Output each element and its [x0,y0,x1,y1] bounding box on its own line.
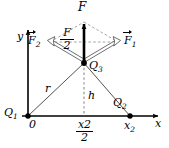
label-vector-f: F [78,1,86,13]
label-charge-q3-base: Q [89,59,98,72]
label-charge-q2: Q2 [113,97,127,111]
label-charge-q2-sub: 2 [122,102,127,111]
label-axis-x-text: x [155,117,161,130]
label-origin-zero-text: 0 [29,118,36,131]
label-charge-q1: Q1 [4,107,18,121]
label-charge-q3: Q3 [89,60,103,74]
label-origin-zero: 0 [29,119,36,130]
label-tick-x2: x2 [124,120,135,134]
label-distance-r-text: r [45,82,50,95]
label-charge-q1-base: Q [4,106,13,119]
label-height-h-text: h [88,89,95,102]
label-vector-f1-base: F [124,35,132,46]
physics-diagram: F y x F2 F1 F 2 Q3 r h Q1 Q2 0 x2 x2 2 [0,0,169,148]
label-distance-r: r [45,83,50,94]
rhombus-edge-right-top [84,22,118,42]
label-axis-y: y [17,31,23,42]
label-half-resultant-numerator: F [60,27,74,38]
label-vector-f2-sub: 2 [36,40,41,49]
label-tick-x2-over-2: x2 2 [76,119,93,143]
label-vector-f1: F1 [124,35,136,49]
label-charge-q2-base: Q [113,96,122,109]
label-axis-y-text: y [17,30,23,43]
label-axis-x: x [155,118,161,129]
point-q3 [81,60,87,66]
label-tick-x2-over-2-denominator: 2 [76,132,93,143]
label-vector-f-text: F [78,1,86,13]
label-vector-f1-sub: 1 [132,40,137,49]
label-half-resultant-denominator: 2 [60,40,74,51]
label-charge-q3-sub: 3 [98,65,103,74]
label-vector-f2: F2 [28,35,40,49]
label-half-resultant-force: F 2 [60,27,74,51]
label-tick-x2-over-2-numerator: x2 [76,119,93,130]
label-vector-f2-base: F [28,35,36,46]
label-charge-q1-sub: 1 [13,112,18,121]
distance-r-line [28,63,84,116]
label-tick-x2-sub: 2 [130,125,135,134]
label-height-h: h [88,90,95,101]
point-q2 [127,113,132,118]
